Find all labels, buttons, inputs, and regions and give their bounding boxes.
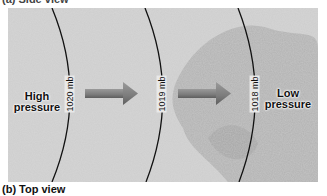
- figure-caption: (b) Top view: [2, 183, 65, 195]
- isobar-label-1018: 1018 mb: [250, 75, 260, 112]
- isobar-label-1020: 1020 mb: [65, 75, 75, 112]
- low-pressure-label: Low pressure: [258, 88, 318, 110]
- isobar-label-1019: 1019 mb: [157, 75, 167, 112]
- side-view-caption: (a) Side view: [2, 0, 69, 5]
- map-panel: High pressure Low pressure 1020 mb 1019 …: [8, 8, 318, 182]
- high-pressure-label: High pressure: [12, 91, 62, 113]
